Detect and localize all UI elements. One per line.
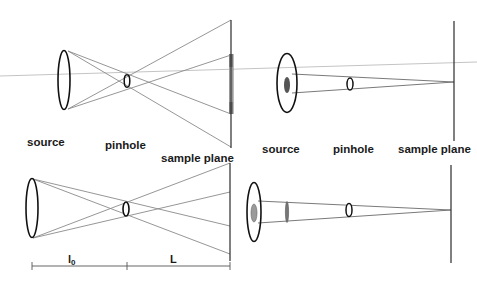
optical-axis-line [0,62,477,76]
rays [68,20,231,147]
label-l0-sub: 0 [71,258,75,267]
rays [292,74,454,93]
source-ellipse [26,179,38,238]
panel-bottom-right [247,165,451,263]
label-sample-plane-top-left: sample plane [161,153,234,165]
pinhole-ellipse [347,78,353,90]
label-distance-L: L [170,254,177,265]
source-ellipse [58,51,70,110]
label-distance-l0: l0 [68,254,76,267]
pinhole-ellipse [346,204,352,217]
label-pinhole-top-left: pinhole [105,140,146,152]
panel-top-right [277,21,454,141]
aperture-lens [285,202,288,223]
panel-bottom-left [26,163,230,270]
label-source-top-left: source [27,137,65,149]
label-source-top-right: source [262,144,300,156]
panel-top-left [58,20,234,148]
dimension-line [32,262,230,270]
label-pinhole-top-right: pinhole [333,144,374,156]
rays [33,163,230,254]
source-core [284,77,290,93]
label-sample-plane-top-right: sample plane [398,144,471,156]
pinhole-ellipse [123,202,129,216]
source-core [251,204,257,222]
